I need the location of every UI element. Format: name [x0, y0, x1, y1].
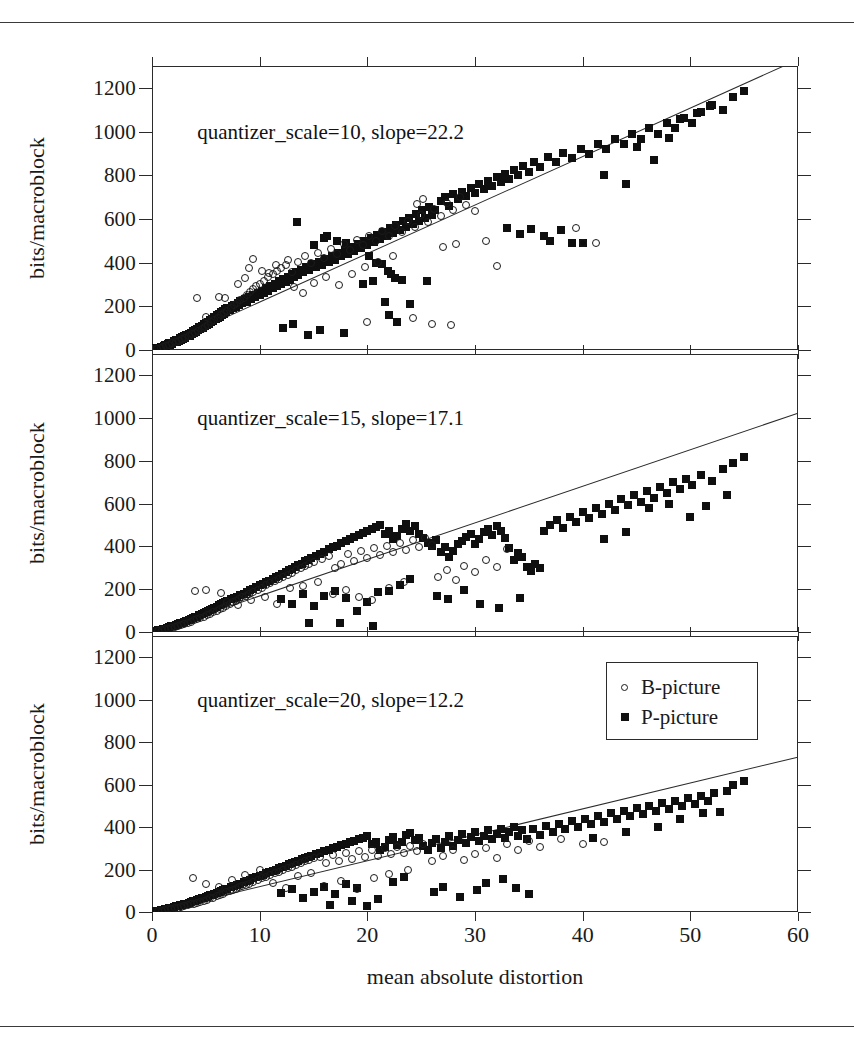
b-picture-point: [329, 851, 337, 859]
b-picture-point: [404, 217, 412, 225]
b-picture-point: [269, 270, 277, 278]
p-picture-point: [505, 175, 513, 183]
y-tick-right-panel-3-200: [798, 870, 811, 871]
p-picture-point: [579, 239, 587, 247]
p-picture-point: [540, 527, 548, 535]
p-picture-point: [262, 578, 270, 586]
b-picture-point: [335, 281, 343, 289]
p-picture-point: [396, 581, 404, 589]
b-picture-point: [301, 252, 309, 260]
y-tick-label-panel-2-6: 1200: [93, 365, 136, 386]
b-picture-point: [409, 314, 417, 322]
panel-2-plot-area: [152, 354, 798, 632]
p-picture-point: [368, 840, 376, 848]
p-picture-point: [514, 549, 522, 557]
b-picture-point: [305, 560, 313, 568]
p-picture-point: [381, 298, 389, 306]
p-picture-point: [307, 554, 315, 562]
b-picture-point: [258, 584, 266, 592]
p-picture-point: [600, 535, 608, 543]
p-picture-point: [305, 619, 313, 627]
p-picture-point: [347, 243, 355, 251]
p-picture-point: [325, 258, 333, 266]
p-picture-point: [363, 902, 371, 910]
p-picture-point: [305, 266, 313, 274]
y-tick-right-panel-1-200: [798, 306, 811, 307]
p-picture-point: [536, 564, 544, 572]
p-picture-point: [355, 835, 363, 843]
b-picture-point: [443, 199, 451, 207]
p-picture-point: [381, 843, 389, 851]
b-picture-point: [314, 578, 322, 586]
p-picture-point: [418, 206, 426, 214]
b-picture-point: [393, 843, 401, 851]
p-picture-point: [729, 781, 737, 789]
p-picture-point: [497, 527, 505, 535]
x-tick-top-panel-3-60: [798, 627, 799, 636]
x-tick-panel-3-40: [583, 912, 584, 921]
p-picture-point: [370, 238, 378, 246]
p-picture-point: [493, 830, 501, 838]
p-picture-point: [337, 539, 345, 547]
p-picture-point: [298, 855, 306, 863]
p-picture-point: [704, 797, 712, 805]
p-picture-point: [320, 847, 328, 855]
p-picture-point: [243, 877, 251, 885]
b-picture-point: [292, 566, 300, 574]
b-picture-point: [370, 544, 378, 552]
p-picture-point: [320, 883, 328, 891]
p-picture-point: [624, 501, 632, 509]
b-picture-point: [240, 294, 248, 302]
p-picture-point: [680, 114, 688, 122]
x-tick-top-panel-2-30: [475, 345, 476, 354]
p-picture-point: [385, 587, 393, 595]
y-tick-label-panel-2-4: 800: [104, 450, 136, 471]
b-picture-point: [372, 237, 380, 245]
p-picture-point: [514, 171, 522, 179]
p-picture-point: [230, 301, 238, 309]
x-axis-title: mean absolute distortion: [152, 966, 798, 988]
p-picture-point: [398, 276, 406, 284]
p-picture-point: [389, 833, 397, 841]
p-picture-point: [633, 143, 641, 151]
p-picture-point: [437, 197, 445, 205]
p-picture-point: [546, 237, 554, 245]
b-picture-point: [271, 869, 279, 877]
y-tick-panel-3-800: [139, 742, 152, 743]
b-picture-point: [299, 289, 307, 297]
p-picture-point: [643, 487, 651, 495]
p-picture-point: [373, 231, 381, 239]
p-picture-point: [333, 843, 341, 851]
p-picture-point: [278, 570, 286, 578]
p-picture-point: [350, 837, 358, 845]
p-picture-point: [598, 510, 606, 518]
b-picture-point: [452, 240, 460, 248]
p-picture-point: [265, 577, 273, 585]
b-picture-point: [245, 880, 253, 888]
p-picture-point: [518, 826, 526, 834]
b-picture-point: [579, 840, 587, 848]
p-picture-point: [510, 556, 518, 564]
b-picture-point: [254, 586, 262, 594]
p-picture-point: [663, 489, 671, 497]
panel-3-annotation: quantizer_scale=20, slope=12.2: [197, 690, 464, 711]
p-picture-point: [607, 809, 615, 817]
b-picture-point: [385, 584, 393, 592]
p-picture-point: [374, 895, 382, 903]
b-picture-point: [272, 261, 280, 269]
p-picture-point: [484, 177, 492, 185]
p-picture-point: [249, 874, 257, 882]
y-tick-right-panel-2-600: [798, 504, 811, 505]
p-picture-point: [272, 866, 280, 874]
p-picture-point: [425, 203, 433, 211]
p-picture-point: [259, 580, 267, 588]
b-picture-point: [202, 880, 210, 888]
b-picture-point: [282, 261, 290, 269]
x-tick-top-panel-3-20: [367, 627, 368, 636]
legend-label-b-picture: B-picture: [641, 677, 720, 698]
b-picture-point: [503, 840, 511, 848]
b-picture-point: [279, 866, 287, 874]
p-picture-point: [308, 260, 316, 268]
b-picture-point: [230, 301, 238, 309]
p-picture-point: [471, 189, 479, 197]
